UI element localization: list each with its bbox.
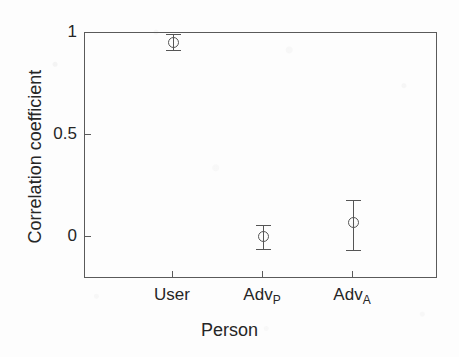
x-tick-label-advp-subscript: P: [273, 293, 281, 307]
errorbar-cap-lower-adva: [346, 250, 361, 251]
data-point-advp: [258, 231, 269, 242]
y-axis-title: Correlation coefficient: [25, 32, 46, 282]
data-point-adva: [348, 217, 359, 228]
y-tick-label-0: 0: [55, 227, 77, 244]
y-tick-mark-0_5: [84, 134, 91, 135]
figure-container: 1 0.5 0 User AdvP AdvA Person Correlatio…: [0, 0, 459, 357]
x-tick-label-adva-base: Adv: [333, 285, 362, 304]
errorbar-cap-upper-adva: [346, 200, 361, 201]
errorbar-cap-upper-advp: [256, 225, 271, 226]
x-tick-label-adva: AdvA: [302, 285, 402, 304]
x-tick-mark-adva: [352, 271, 353, 278]
y-tick-label-0_5: 0.5: [41, 125, 77, 142]
y-tick-mark-0: [84, 236, 91, 237]
errorbar-cap-upper-user: [166, 34, 181, 35]
x-tick-label-user-base: User: [154, 285, 190, 304]
x-tick-label-user: User: [122, 285, 222, 304]
x-tick-label-advp: AdvP: [212, 285, 312, 304]
errorbar-cap-lower-advp: [256, 249, 271, 250]
x-tick-mark-user: [172, 271, 173, 278]
x-tick-label-adva-subscript: A: [363, 293, 371, 307]
x-tick-label-advp-base: Adv: [243, 285, 272, 304]
errorbar-cap-lower-user: [166, 50, 181, 51]
x-tick-mark-advp: [262, 271, 263, 278]
y-tick-label-1: 1: [55, 23, 77, 40]
y-tick-mark-1: [84, 32, 91, 33]
x-axis-title: Person: [0, 320, 459, 341]
data-point-user: [168, 37, 179, 48]
